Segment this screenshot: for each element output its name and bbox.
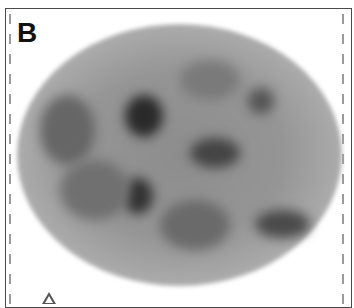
density-region <box>40 95 95 165</box>
density-region <box>190 138 240 168</box>
right-dashed-guide <box>342 14 344 304</box>
density-region <box>255 210 310 238</box>
density-region <box>160 200 230 250</box>
arrow-up-icon <box>42 292 56 304</box>
density-region <box>125 95 163 137</box>
density-region <box>180 60 240 100</box>
density-region <box>248 88 274 114</box>
density-region <box>60 160 130 220</box>
panel-label: B <box>17 19 37 47</box>
left-dashed-guide <box>9 14 11 304</box>
